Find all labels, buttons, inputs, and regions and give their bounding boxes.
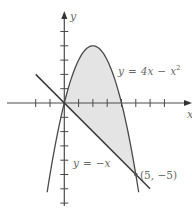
- x-axis-arrow-icon: [184, 100, 192, 106]
- parabola-equation-label: y=4x−x2: [117, 64, 181, 77]
- y-axis-arrow-icon: [61, 11, 67, 19]
- shaded-region: [64, 46, 136, 175]
- y-axis-label: y: [69, 10, 77, 23]
- line-equation-label: y=−x: [72, 157, 111, 169]
- y-axis: [61, 11, 67, 206]
- intersection-point: [134, 173, 138, 177]
- intersection-point-label: (5, −5): [140, 169, 177, 181]
- x-axis-label: x: [187, 108, 192, 121]
- graph: y x y=4x−x2 y=−x (5, −5): [0, 0, 192, 211]
